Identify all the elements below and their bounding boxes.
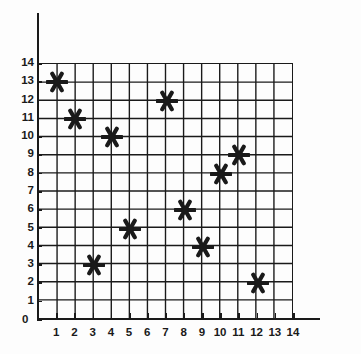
y-tick-label: 1 [14,295,34,307]
y-tick-mark [37,118,42,120]
y-tick-mark [37,228,42,230]
y-tick-label: 2 [14,276,34,288]
x-tick-mark [293,313,295,319]
y-tick-label: 4 [14,240,34,252]
x-tick-mark [202,313,204,319]
y-tick-mark [37,301,42,303]
y-tick-mark [37,173,42,175]
y-tick-mark [37,63,42,65]
y-tick-mark [37,246,42,248]
y-tick-label: 5 [14,222,34,234]
x-tick-mark [166,313,168,319]
x-tick-label: 14 [281,327,305,339]
x-tick-mark [56,313,58,319]
x-tick-mark [111,313,113,319]
x-tick-mark [129,313,131,319]
y-tick-mark [37,154,42,156]
scatter-plot-figure: 1234567891011121314 1234567891011121314 … [0,0,361,354]
y-tick-label: 3 [14,258,34,270]
y-tick-label: 8 [14,167,34,179]
y-tick-mark [37,282,42,284]
x-tick-mark [184,313,186,319]
y-tick-label: 10 [14,130,34,142]
y-axis-tick-labels: 1234567891011121314 [10,0,34,354]
y-tick-label: 14 [14,57,34,69]
y-tick-mark [37,191,42,193]
y-tick-mark [37,136,42,138]
y-tick-label: 6 [14,203,34,215]
y-tick-mark [37,100,42,102]
origin-label: 0 [22,313,28,325]
x-tick-mark [74,313,76,319]
plot-area [38,63,293,319]
y-tick-label: 9 [14,148,34,160]
y-tick-mark [37,209,42,211]
y-tick-mark [37,81,42,83]
x-tick-mark [93,313,95,319]
y-tick-label: 12 [14,94,34,106]
x-axis-tick-labels: 1234567891011121314 [0,327,361,345]
grid-lines [39,64,292,318]
x-tick-mark [220,313,222,319]
x-tick-mark [238,313,240,319]
y-tick-mark [37,319,42,321]
x-tick-mark [257,313,259,319]
y-tick-label: 13 [14,75,34,87]
y-tick-label: 11 [14,112,34,124]
x-tick-mark [147,313,149,319]
y-tick-label: 7 [14,185,34,197]
x-tick-mark [275,313,277,319]
y-tick-mark [37,264,42,266]
